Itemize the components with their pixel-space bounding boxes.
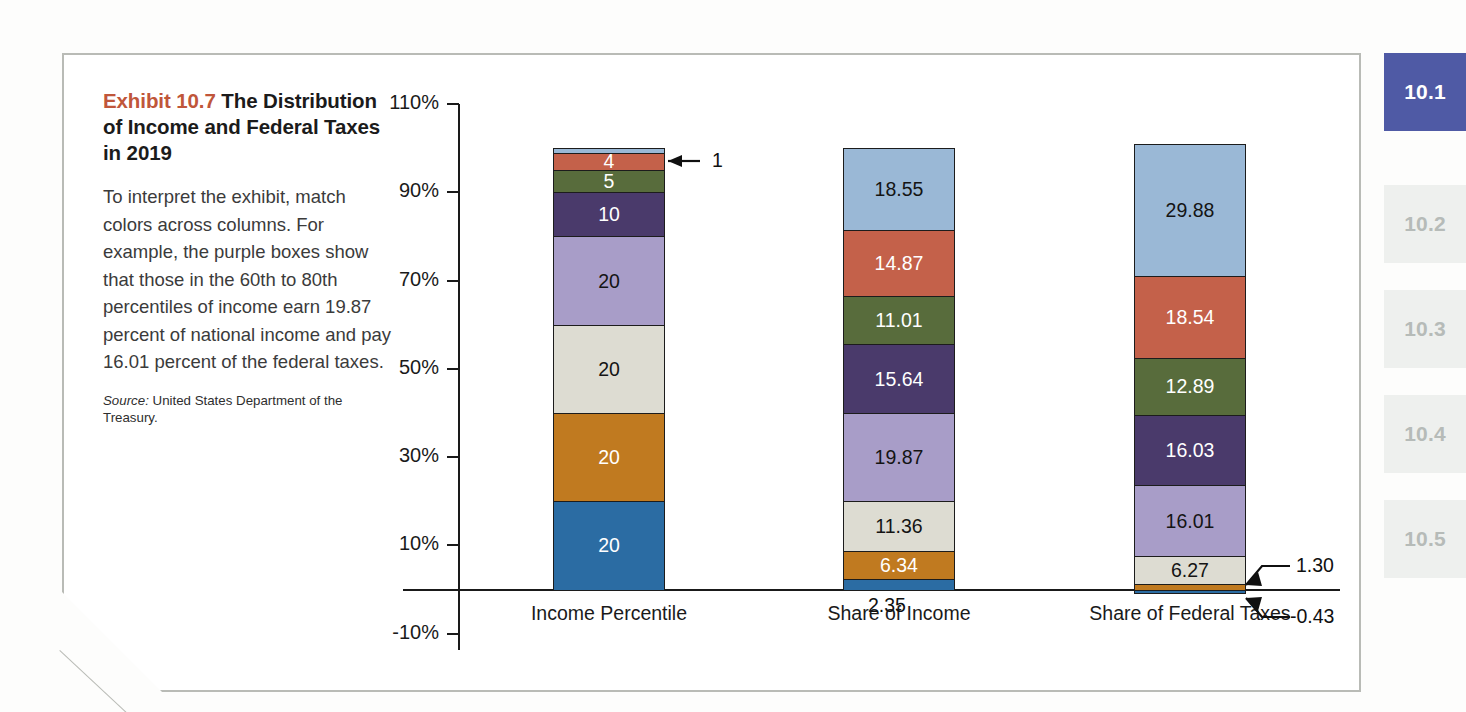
chapter-tab-10-3[interactable]: 10.3	[1384, 290, 1466, 368]
chapter-tab-label: 10.1	[1404, 80, 1446, 104]
chapter-tab-10-5[interactable]: 10.5	[1384, 500, 1466, 578]
annotation-130-label: 1.30	[1296, 554, 1334, 577]
exhibit-page: Exhibit 10.7 The Distribution of Income …	[0, 0, 1466, 712]
chapter-tab-10-2[interactable]: 10.2	[1384, 185, 1466, 263]
annotation-neg043-label: -0.43	[1290, 605, 1334, 628]
chapter-tab-10-4[interactable]: 10.4	[1384, 395, 1466, 473]
chapter-tab-label: 10.3	[1404, 317, 1446, 341]
arrowhead-top1	[668, 155, 682, 167]
chart-plot-area: 110%90%70%50%30%10%-10% 45102020202018.5…	[0, 0, 1466, 712]
chapter-tab-label: 10.4	[1404, 422, 1446, 446]
chapter-tab-strip: 10.110.210.310.410.5	[1384, 0, 1466, 712]
annotation-top1-label: 1	[712, 149, 723, 172]
chapter-tab-label: 10.2	[1404, 212, 1446, 236]
chapter-tab-10-1[interactable]: 10.1	[1384, 53, 1466, 131]
annotation-235-label: 2.35	[868, 594, 906, 617]
chapter-tab-label: 10.5	[1404, 527, 1446, 551]
callout-leader-lines	[0, 0, 1466, 712]
